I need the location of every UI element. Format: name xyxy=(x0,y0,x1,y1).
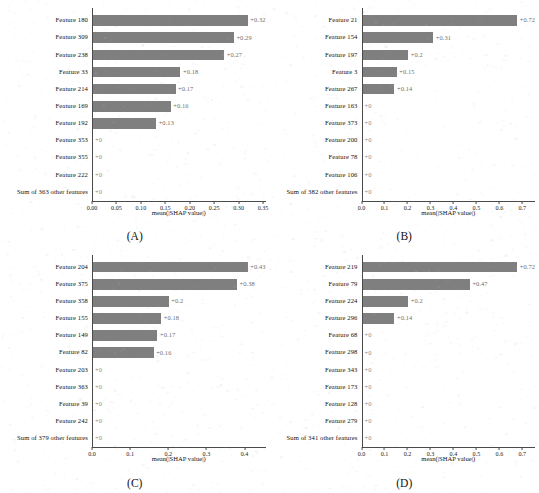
panel-d-xlabel: mean(|SHAP value|) xyxy=(362,456,536,463)
bar-value-label: +0 xyxy=(365,172,372,178)
category-label: Feature 238 xyxy=(0,46,92,63)
category-label: Feature 3 xyxy=(270,63,362,80)
x-tick xyxy=(92,447,93,450)
bar-value-label: +0 xyxy=(95,367,102,373)
bar-value-label: +0 xyxy=(95,418,102,424)
bar-row: +0.18 xyxy=(93,63,266,80)
bar-value-label: +0.2 xyxy=(411,52,423,58)
category-label: Feature 82 xyxy=(0,344,92,361)
category-label: Feature 78 xyxy=(270,149,362,166)
panel-a: Feature 180Feature 309Feature 238Feature… xyxy=(0,0,270,247)
panel-c-xlabel: mean(|SHAP value|) xyxy=(92,456,266,463)
bar-row: +0.18 xyxy=(93,310,266,327)
panel-c-inner: Feature 204Feature 375Feature 358Feature… xyxy=(0,247,270,493)
bar xyxy=(93,330,157,341)
bar-row: +0 xyxy=(93,396,266,413)
category-label: Feature 355 xyxy=(0,149,92,166)
x-tick xyxy=(522,447,523,450)
bar xyxy=(363,296,409,307)
bar-row: +0 xyxy=(363,115,536,132)
bar-row: +0.17 xyxy=(93,81,266,98)
bar-row: +0 xyxy=(93,183,266,200)
bar-value-label: +0 xyxy=(95,189,102,195)
category-label: Feature 204 xyxy=(0,259,92,276)
panel-d: Feature 219Feature 79Feature 224Feature … xyxy=(270,247,539,493)
x-tick xyxy=(476,201,477,204)
panel-b-plot: Feature 21Feature 154Feature 197Feature … xyxy=(270,8,536,201)
category-label: Sum of 341 other features xyxy=(270,430,362,447)
panel-d-inner: Feature 219Feature 79Feature 224Feature … xyxy=(270,247,539,493)
bar xyxy=(93,84,176,95)
bar-value-label: +0.72 xyxy=(520,17,535,23)
x-tick xyxy=(361,447,362,450)
panel-a-bars: +0.32+0.29+0.27+0.18+0.17+0.16+0.13+0+0+… xyxy=(92,8,266,201)
panel-c-bars: +0.43+0.38+0.2+0.18+0.17+0.16+0+0+0+0+0 xyxy=(92,255,266,448)
x-tick xyxy=(499,447,500,450)
bar-row: +0.14 xyxy=(363,81,536,98)
category-label: Feature 373 xyxy=(270,115,362,132)
x-tick xyxy=(165,201,166,204)
category-label: Feature 68 xyxy=(270,327,362,344)
x-tick xyxy=(244,447,245,450)
bar-row: +0 xyxy=(363,183,536,200)
panel-c: Feature 204Feature 375Feature 358Feature… xyxy=(0,247,270,493)
x-tick xyxy=(92,201,93,204)
bar-value-label: +0.14 xyxy=(397,86,412,92)
category-label: Feature 203 xyxy=(0,361,92,378)
category-label: Feature 242 xyxy=(0,413,92,430)
bar xyxy=(93,296,169,307)
bar-row: +0.17 xyxy=(93,327,266,344)
bar xyxy=(363,15,518,26)
bar-value-label: +0.31 xyxy=(436,35,451,41)
bar-value-label: +0 xyxy=(365,120,372,126)
bar-value-label: +0.13 xyxy=(159,120,174,126)
bar-row: +0 xyxy=(363,149,536,166)
category-label: Sum of 382 other features xyxy=(270,183,362,200)
category-label: Feature 296 xyxy=(270,310,362,327)
category-label: Feature 200 xyxy=(270,132,362,149)
x-tick xyxy=(430,447,431,450)
panel-a-xlabel: mean(|SHAP value|) xyxy=(92,210,266,217)
bar xyxy=(363,32,434,43)
bar-value-label: +0.2 xyxy=(171,298,183,304)
panel-b-letter: (B) xyxy=(270,231,539,243)
panel-c-plot: Feature 204Feature 375Feature 358Feature… xyxy=(0,255,266,448)
panel-b-category-labels: Feature 21Feature 154Feature 197Feature … xyxy=(270,8,362,201)
bar-value-label: +0 xyxy=(95,137,102,143)
x-tick xyxy=(116,201,117,204)
category-label: Feature 363 xyxy=(0,378,92,395)
category-label: Feature 197 xyxy=(270,46,362,63)
category-label: Feature 353 xyxy=(0,132,92,149)
bar-row: +0 xyxy=(363,430,536,447)
category-label: Feature 173 xyxy=(270,378,362,395)
x-tick xyxy=(263,201,264,204)
bar-row: +0.16 xyxy=(93,98,266,115)
bar-value-label: +0.2 xyxy=(411,298,423,304)
bar xyxy=(363,67,397,78)
bar-row: +0 xyxy=(93,378,266,395)
x-tick xyxy=(140,201,141,204)
panel-b-inner: Feature 21Feature 154Feature 197Feature … xyxy=(270,0,539,247)
category-label: Sum of 363 other features xyxy=(0,183,92,200)
bar-value-label: +0.18 xyxy=(164,315,179,321)
bar-row: +0.72 xyxy=(363,259,536,276)
category-label: Feature 128 xyxy=(270,396,362,413)
bar-row: +0.38 xyxy=(93,276,266,293)
bar-value-label: +0 xyxy=(365,350,372,356)
bar xyxy=(363,50,409,61)
panel-a-category-labels: Feature 180Feature 309Feature 238Feature… xyxy=(0,8,92,201)
panel-c-category-labels: Feature 204Feature 375Feature 358Feature… xyxy=(0,255,92,448)
panel-b-bars: +0.72+0.31+0.2+0.15+0.14+0+0+0+0+0+0 xyxy=(362,8,536,201)
x-tick xyxy=(189,201,190,204)
bar-value-label: +0 xyxy=(95,172,102,178)
x-tick xyxy=(407,447,408,450)
bar xyxy=(93,67,180,78)
bar-row: +0 xyxy=(93,413,266,430)
category-label: Sum of 379 other features xyxy=(0,430,92,447)
bar-row: +0.2 xyxy=(93,293,266,310)
bar-row: +0.2 xyxy=(363,293,536,310)
bar-row: +0 xyxy=(363,132,536,149)
panel-b-axis-line xyxy=(362,201,536,202)
bar-row: +0.47 xyxy=(363,276,536,293)
category-label: Feature 224 xyxy=(270,293,362,310)
